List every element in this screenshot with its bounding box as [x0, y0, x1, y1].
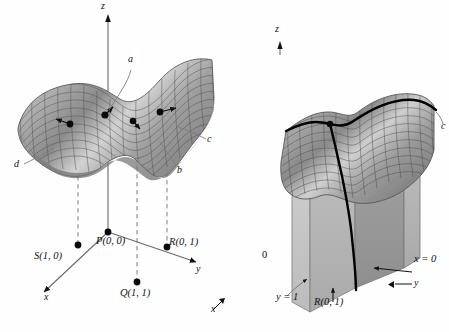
vector-label-b: b	[177, 165, 182, 175]
right-curve-label-c: c	[441, 121, 445, 131]
vector-label-a: a	[128, 54, 133, 64]
left-z-axis-arrowhead	[105, 14, 111, 22]
plane-label-y-equals-1: y = 1	[276, 292, 298, 303]
ground-point-S	[75, 242, 82, 249]
left-y-axis-label: y	[196, 264, 200, 274]
figure-svg	[0, 0, 449, 332]
right-surface-point	[327, 121, 333, 127]
point-label-P: P(0, 0)	[96, 236, 125, 247]
point-label-Q: Q(1, 1)	[120, 288, 150, 299]
right-z-axis-arrowhead	[277, 41, 282, 49]
vector-label-d: d	[14, 159, 19, 169]
right-z-axis-label: z	[275, 24, 279, 34]
plane-label-x-equals-0: x = 0	[414, 254, 436, 265]
point-label-R: R(0, 1)	[169, 237, 198, 248]
left-z-axis-label: z	[101, 1, 105, 11]
figure-canvas: z a b c d P(0, 0) Q(1, 1) R(0, 1) S(1, 0…	[0, 0, 449, 332]
right-point-label-R: R(0, 1)	[314, 297, 343, 308]
point-label-S: S(1, 0)	[34, 251, 62, 262]
vector-label-c: c	[207, 134, 211, 144]
ground-point-Q	[134, 279, 141, 286]
right-origin-label: 0	[262, 250, 267, 261]
right-y-axis-arrowhead	[388, 281, 394, 288]
right-x-axis-label: x	[211, 304, 215, 314]
right-y-axis-label: y	[414, 278, 418, 288]
right-panel	[213, 41, 443, 312]
left-surface	[16, 58, 218, 192]
left-x-axis-label: x	[44, 292, 48, 302]
